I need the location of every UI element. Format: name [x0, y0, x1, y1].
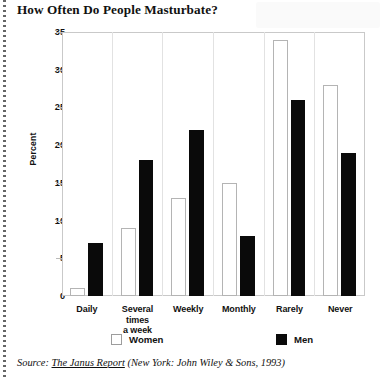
bar-women [323, 85, 338, 296]
legend-swatch-men-icon [276, 334, 287, 345]
bar-men [291, 100, 306, 296]
legend-item-men: Men [276, 334, 313, 345]
source-citation: Source: The Janus Report (New York: John… [17, 357, 285, 368]
bar-women [70, 288, 85, 296]
x-tick-label: Rarely [265, 304, 315, 315]
bar-men [240, 236, 255, 296]
legend-swatch-women-icon [111, 334, 122, 345]
bar-group: Weekly [163, 32, 214, 296]
chart-legend: Women Men [0, 334, 384, 352]
scan-watermark [256, 2, 380, 28]
bar-chart: Percent 05101520253035 DailySeveral time… [0, 26, 384, 326]
page-title: How Often Do People Masturbate? [17, 2, 218, 18]
bar-women [121, 228, 136, 296]
bar-women [273, 40, 288, 296]
bar-group: Rarely [265, 32, 316, 296]
legend-label-women: Women [129, 334, 163, 345]
x-tick-label: Weekly [163, 304, 213, 315]
y-tick-label: 0 [25, 291, 65, 301]
source-publisher: (New York: John Wiley & Sons, 1993) [125, 357, 285, 368]
bar-women [222, 183, 237, 296]
legend-label-men: Men [294, 334, 313, 345]
bar-groups: DailySeveral times a weekWeeklyMonthlyRa… [62, 32, 365, 296]
bar-women [171, 198, 186, 296]
bar-men [139, 160, 154, 296]
x-tick-label: Never [315, 304, 365, 315]
bar-group: Several times a week [113, 32, 164, 296]
bar-group: Never [315, 32, 365, 296]
bar-men [341, 153, 356, 296]
x-tick-label: Monthly [214, 304, 264, 315]
source-prefix: Source: [17, 357, 52, 368]
source-work-title: The Janus Report [52, 357, 125, 368]
bar-men [189, 130, 204, 296]
x-tick-label: Daily [62, 304, 112, 315]
x-tick-label: Several times a week [113, 304, 163, 336]
bar-group: Daily [62, 32, 113, 296]
bar-men [88, 243, 103, 296]
legend-item-women: Women [111, 334, 163, 345]
bar-group: Monthly [214, 32, 265, 296]
